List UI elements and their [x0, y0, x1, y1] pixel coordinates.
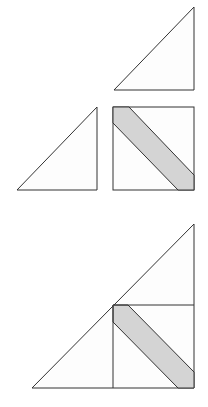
assembled-block-group: [32, 224, 194, 388]
left-triangle-piece: [17, 107, 97, 190]
top-triangle-piece: [114, 7, 194, 90]
quilt-block-diagram: [0, 0, 208, 407]
pieces-group: [17, 7, 194, 190]
